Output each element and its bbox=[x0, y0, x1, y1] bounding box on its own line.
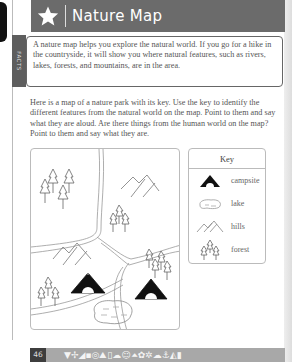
footer-icon-strip: ▼✢◢▪◎⛰▯☁☺⏶✿✲☁⚓◭▮ bbox=[64, 349, 182, 361]
page-footer: 46 ▼✢◢▪◎⛰▯☁☺⏶✿✲☁⚓◭▮ bbox=[30, 348, 285, 362]
key-label: lake bbox=[231, 199, 244, 208]
page-title: Nature Map bbox=[72, 7, 162, 25]
lake-icon bbox=[195, 198, 225, 210]
intro-paragraph: Here is a map of a nature park with its … bbox=[30, 98, 280, 139]
key-item-lake: lake bbox=[189, 192, 265, 215]
facts-box: A nature map helps you explore the natur… bbox=[26, 36, 283, 87]
forest-icon bbox=[40, 169, 74, 209]
facts-tab: FACTS bbox=[12, 35, 26, 87]
nature-map bbox=[30, 148, 180, 330]
page-tab-edge bbox=[0, 2, 7, 42]
facts-tab-label: FACTS bbox=[16, 51, 22, 71]
key-title: Key bbox=[189, 149, 265, 169]
lake-icon bbox=[94, 301, 132, 324]
campsite-icon bbox=[135, 279, 167, 299]
hills-icon bbox=[195, 220, 225, 234]
roads bbox=[31, 149, 180, 330]
forest-icon bbox=[110, 205, 129, 232]
key-label: hills bbox=[231, 222, 245, 231]
section-header: Nature Map bbox=[31, 0, 285, 32]
star-icon bbox=[35, 3, 61, 29]
key-item-forest: forest bbox=[189, 238, 265, 261]
page-number: 46 bbox=[30, 348, 46, 362]
key-label: campsite bbox=[231, 176, 259, 185]
key-item-hills: hills bbox=[189, 215, 265, 238]
page-right-edge bbox=[284, 0, 292, 362]
hills-icon bbox=[121, 175, 159, 197]
forest-icon bbox=[195, 239, 225, 261]
facts-text: A nature map helps you explore the natur… bbox=[33, 40, 276, 71]
campsite-icon bbox=[71, 273, 105, 293]
forest-icon bbox=[38, 277, 59, 306]
map-key: Key campsite lake hills forest bbox=[188, 148, 266, 264]
campsite-icon bbox=[195, 174, 225, 188]
key-item-campsite: campsite bbox=[189, 169, 265, 192]
header-divider bbox=[65, 5, 66, 27]
key-label: forest bbox=[231, 245, 249, 254]
